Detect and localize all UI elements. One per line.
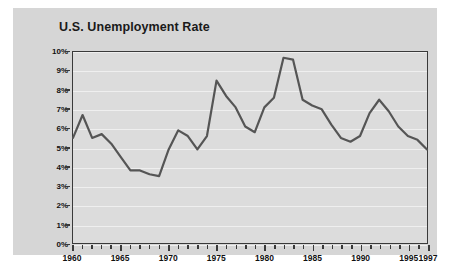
- y-axis-tick: [65, 205, 70, 207]
- x-axis-tick-minor: [226, 245, 228, 249]
- x-axis-tick-minor: [380, 245, 382, 249]
- x-axis-tick-minor: [284, 245, 286, 249]
- y-axis-tick: [65, 166, 70, 168]
- y-axis-tick: [65, 244, 70, 246]
- x-axis-tick-minor: [236, 245, 238, 249]
- x-axis-tick-minor: [399, 245, 401, 249]
- x-axis-tick-major: [361, 245, 363, 251]
- x-axis-label: 1997: [419, 253, 438, 263]
- y-axis-tick: [65, 108, 70, 110]
- x-axis-tick-minor: [130, 245, 132, 249]
- x-axis-tick-minor: [178, 245, 180, 249]
- x-axis-tick-major: [216, 245, 218, 251]
- x-axis-tick-minor: [207, 245, 209, 249]
- x-axis-tick-minor: [351, 245, 353, 249]
- x-axis-tick-minor: [139, 245, 141, 249]
- y-axis-tick: [65, 128, 70, 130]
- unemployment-rate-line-series: [73, 52, 427, 243]
- y-axis-tick: [65, 70, 70, 72]
- y-axis-tick: [65, 186, 70, 188]
- x-axis-label: 1995: [399, 253, 418, 263]
- x-axis-tick-minor: [303, 245, 305, 249]
- x-axis-tick-minor: [245, 245, 247, 249]
- x-axis-tick-major: [264, 245, 266, 251]
- x-axis-label: 1990: [351, 253, 370, 263]
- x-axis-tick-minor: [370, 245, 372, 249]
- x-axis-tick-minor: [197, 245, 199, 249]
- x-axis-tick-minor: [255, 245, 257, 249]
- x-axis-tick-minor: [332, 245, 334, 249]
- plot-area: [72, 51, 428, 244]
- series-polyline: [73, 58, 427, 176]
- y-axis-tick: [65, 51, 70, 53]
- x-axis-tick-major: [313, 245, 315, 251]
- y-axis-ticks: [13, 51, 72, 244]
- x-axis-tick-major: [409, 245, 411, 251]
- x-axis-label: 1965: [111, 253, 130, 263]
- x-axis-tick-major: [120, 245, 122, 251]
- x-axis-label: 1980: [255, 253, 274, 263]
- x-axis-tick-minor: [293, 245, 295, 249]
- x-axis-label: 1985: [303, 253, 322, 263]
- x-axis-tick-minor: [149, 245, 151, 249]
- x-axis-tick-major: [428, 245, 430, 251]
- x-axis-tick-minor: [274, 245, 276, 249]
- x-axis-tick-minor: [101, 245, 103, 249]
- chart-card: U.S. Unemployment Rate 10%9%8%7%6%5%4%3%…: [13, 8, 437, 255]
- x-axis-tick-minor: [110, 245, 112, 249]
- x-axis-tick-minor: [91, 245, 93, 249]
- x-axis-label: 1975: [207, 253, 226, 263]
- x-axis-labels: 196019651970197519801985199019951997: [72, 253, 429, 265]
- x-axis-tick-minor: [418, 245, 420, 249]
- x-axis-tick-minor: [322, 245, 324, 249]
- x-axis-tick-major: [168, 245, 170, 251]
- x-axis-label: 1970: [159, 253, 178, 263]
- x-axis-tick-minor: [390, 245, 392, 249]
- x-axis-tick-minor: [341, 245, 343, 249]
- x-axis-tick-major: [72, 245, 74, 251]
- x-axis-tick-minor: [187, 245, 189, 249]
- x-axis-label: 1960: [63, 253, 82, 263]
- y-axis-tick: [65, 224, 70, 226]
- x-axis-ticks: [72, 245, 429, 252]
- x-axis-tick-minor: [82, 245, 84, 249]
- y-axis-tick: [65, 147, 70, 149]
- x-axis-tick-minor: [159, 245, 161, 249]
- chart-title: U.S. Unemployment Rate: [59, 20, 210, 34]
- y-axis-tick: [65, 89, 70, 91]
